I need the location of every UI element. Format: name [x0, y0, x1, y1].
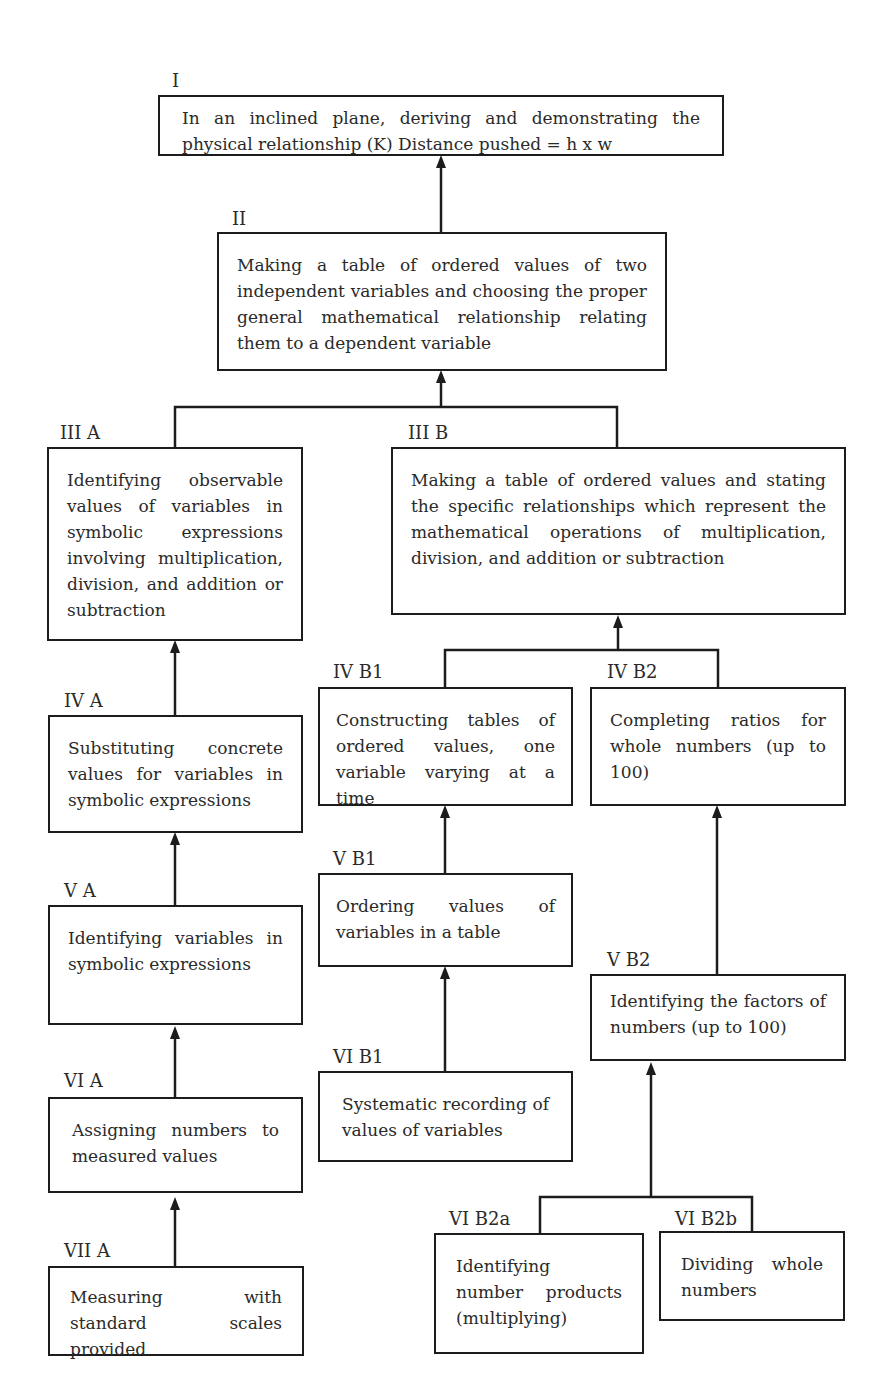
node-VB1: Ordering values of variables in a table — [318, 873, 573, 967]
node-IIIA: Identifying observable values of variabl… — [47, 447, 303, 641]
node-label-VB1: V B1 — [333, 848, 376, 869]
node-text-VIA: Assigning numbers to measured values — [72, 1120, 279, 1166]
node-label-VA: V A — [64, 880, 96, 901]
node-IIIB: Making a table of ordered values and sta… — [391, 447, 846, 615]
node-VB2: Identifying the factors of numbers (up t… — [590, 974, 846, 1061]
connector-III-to-II — [175, 407, 617, 447]
node-text-VB1: Ordering values of variables in a table — [336, 896, 555, 942]
node-label-II: II — [232, 208, 246, 229]
node-IVB2: Completing ratios for whole numbers (up … — [590, 687, 846, 806]
connector-IVB-to-IIIB — [445, 650, 718, 687]
arrowhead-icon — [440, 966, 450, 979]
node-VIIA: Measuring with standard scales provided — [48, 1266, 304, 1356]
node-IVB1: Constructing tables of ordered values, o… — [318, 687, 573, 806]
node-text-VIIA: Measuring with standard scales provided — [70, 1287, 282, 1359]
node-label-VIB1: VI B1 — [333, 1046, 384, 1067]
node-text-VIB1: Systematic recording of values of variab… — [342, 1094, 549, 1140]
node-label-I: I — [172, 70, 179, 91]
node-label-VIB2a: VI B2a — [449, 1208, 510, 1229]
node-text-VA: Identifying variables in symbolic expres… — [68, 928, 283, 974]
node-II: Making a table of ordered values of two … — [217, 232, 667, 371]
node-text-VB2: Identifying the factors of numbers (up t… — [610, 991, 826, 1037]
arrowhead-icon — [613, 615, 623, 628]
node-label-IVA: IV A — [64, 690, 103, 711]
node-text-II: Making a table of ordered values of two … — [237, 255, 647, 353]
node-text-IIIB: Making a table of ordered values and sta… — [411, 470, 826, 568]
arrowhead-icon — [712, 805, 722, 818]
learning-hierarchy-diagram: I In an inclined plane, deriving and dem… — [0, 0, 884, 1377]
arrowhead-icon — [170, 640, 180, 653]
node-text-I: In an inclined plane, deriving and demon… — [182, 108, 700, 154]
node-text-IIIA: Identifying observable values of variabl… — [67, 470, 283, 620]
arrowhead-icon — [170, 1197, 180, 1210]
node-label-VB2: V B2 — [607, 949, 650, 970]
arrowhead-icon — [170, 832, 180, 845]
node-label-VIA: VI A — [64, 1070, 103, 1091]
node-VIB1: Systematic recording of values of variab… — [318, 1071, 573, 1162]
node-text-VIB2a: Identifying number products (multiplying… — [456, 1256, 622, 1328]
node-VIA: Assigning numbers to measured values — [48, 1097, 303, 1193]
node-text-IVA: Substituting concrete values for variabl… — [68, 738, 283, 810]
node-VIB2b: Dividing whole numbers — [659, 1231, 845, 1321]
node-label-IIIB: III B — [408, 422, 448, 443]
node-VIB2a: Identifying number products (multiplying… — [434, 1233, 644, 1354]
node-IVA: Substituting concrete values for variabl… — [48, 715, 303, 833]
arrowhead-icon — [440, 805, 450, 818]
node-label-IVB1: IV B1 — [333, 661, 384, 682]
node-VA: Identifying variables in symbolic expres… — [48, 905, 303, 1025]
node-label-VIIA: VII A — [64, 1240, 110, 1261]
arrowhead-icon — [170, 1026, 180, 1039]
node-I: In an inclined plane, deriving and demon… — [158, 95, 724, 156]
node-label-IVB2: IV B2 — [607, 661, 658, 682]
arrowhead-icon — [436, 370, 446, 383]
node-text-IVB2: Completing ratios for whole numbers (up … — [610, 710, 826, 782]
arrowhead-icon — [646, 1062, 656, 1075]
node-label-IIIA: III A — [60, 422, 100, 443]
node-text-IVB1: Constructing tables of ordered values, o… — [336, 710, 555, 808]
node-label-VIB2b: VI B2b — [675, 1208, 737, 1229]
node-text-VIB2b: Dividing whole numbers — [681, 1254, 823, 1300]
